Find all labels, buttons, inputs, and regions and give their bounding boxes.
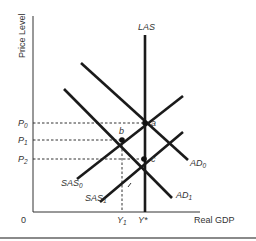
ystar-label: Y*: [138, 215, 148, 225]
p1-label: P1: [18, 135, 28, 146]
las-label: LAS: [138, 22, 155, 32]
ad0-curve: [81, 63, 188, 160]
point-c-label: c: [151, 154, 156, 164]
sas1-curve: [100, 132, 183, 202]
ad1-label: AD1: [175, 190, 193, 201]
point-c-dot: [141, 156, 147, 162]
p0-label: P0: [18, 118, 28, 129]
point-b-label: b: [119, 126, 124, 136]
p2-label: P2: [18, 154, 28, 165]
point-a-label: a: [151, 118, 156, 128]
x-axis-label: Real GDP: [194, 215, 235, 225]
as-ad-diagram: Price Level a b c LAS P0 P1 P2 AD0 AD1 S…: [0, 0, 256, 241]
point-b-dot: [119, 137, 125, 143]
origin-label: 0: [21, 215, 26, 225]
y1-label: Y1: [117, 215, 127, 226]
shift-arrow-icon: [128, 183, 131, 187]
ad0-label: AD0: [189, 158, 207, 169]
bottom-rule: [0, 237, 256, 239]
sas1-label: SAS1: [85, 193, 107, 204]
point-a-dot: [142, 120, 148, 126]
y-axis-label: Price Level: [17, 13, 27, 58]
sas0-label: SAS0: [61, 178, 83, 189]
